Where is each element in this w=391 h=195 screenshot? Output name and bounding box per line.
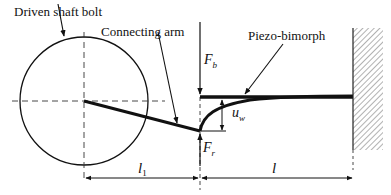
l-symbol: l [272, 160, 276, 176]
deflection-symbol: uw [232, 105, 245, 123]
piezo-bimorph-label: Piezo-bimorph [248, 28, 326, 43]
driven-shaft-bolt-label: Driven shaft bolt [14, 4, 102, 19]
force-r-symbol: Fr [202, 140, 216, 158]
force-b-symbol: Fb [203, 52, 218, 70]
fixed-wall [353, 28, 383, 150]
connecting-arm-label: Connecting arm [101, 24, 184, 39]
connecting-arm-leader [158, 32, 177, 123]
piezo-bimorph-deflected [200, 96, 353, 131]
piezo-bimorph-leader [245, 44, 283, 94]
mechanism-diagram: Driven shaft bolt Connecting arm Piezo-b… [0, 0, 391, 195]
l1-symbol: l1 [138, 160, 147, 178]
